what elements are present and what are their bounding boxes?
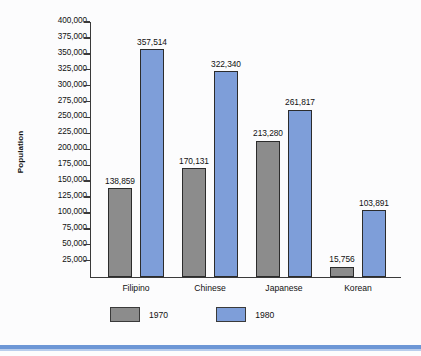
bar-value-label: 170,131 <box>168 156 220 166</box>
y-axis-tick-mark <box>84 165 90 166</box>
y-axis-tick-label: 225,000 <box>58 127 87 136</box>
y-axis-tick-label: 350,000 <box>58 48 87 57</box>
legend-swatch-1970 <box>110 307 140 322</box>
y-axis-tick-label: 300,000 <box>58 80 87 89</box>
y-axis-tick-mark <box>84 69 90 70</box>
y-axis-tick-label: 175,000 <box>58 159 87 168</box>
y-axis-tick-label: 400,000 <box>58 16 87 25</box>
y-axis-tick-label: 125,000 <box>58 191 87 200</box>
y-axis-tick-label: 275,000 <box>58 96 87 105</box>
y-axis-tick-label: 200,000 <box>58 143 87 152</box>
bar-value-label: 213,280 <box>242 128 294 138</box>
bar-japanese-1970 <box>256 141 280 277</box>
y-axis-tick-mark <box>84 244 90 245</box>
bar-value-label: 261,817 <box>274 97 326 107</box>
bar-chinese-1970 <box>182 168 206 276</box>
y-axis-tick-mark <box>84 228 90 229</box>
legend-swatch-1980 <box>216 307 246 322</box>
y-axis-tick-mark <box>84 53 90 54</box>
legend-item-1980: 1980 <box>216 307 274 322</box>
x-axis-line <box>90 277 401 278</box>
legend-label-1970: 1970 <box>149 310 168 320</box>
y-axis-tick-mark <box>84 101 90 102</box>
y-axis-tick-mark <box>84 133 90 134</box>
legend-label-1980: 1980 <box>255 310 274 320</box>
bottom-rule-soft <box>0 349 421 351</box>
y-axis-tick-mark <box>84 180 90 181</box>
x-axis-label-chinese: Chinese <box>180 283 240 293</box>
y-axis-tick-mark <box>84 212 90 213</box>
chart-legend: 1970 1980 <box>110 307 274 322</box>
y-axis-tick-label: 100,000 <box>58 207 87 216</box>
x-axis-label-korean: Korean <box>328 283 388 293</box>
y-axis-tick-label: 150,000 <box>58 175 87 184</box>
y-axis-tick-mark <box>84 117 90 118</box>
bar-value-label: 138,859 <box>94 176 146 186</box>
bar-value-label: 322,340 <box>200 59 252 69</box>
y-axis-tick-mark <box>84 85 90 86</box>
bar-korean-1980 <box>362 210 386 276</box>
x-axis-label-japanese: Japanese <box>254 283 314 293</box>
y-axis-tick-label: 375,000 <box>58 32 87 41</box>
x-axis-label-filipino: Filipino <box>106 283 166 293</box>
bar-chinese-1980 <box>214 71 238 276</box>
y-axis-tick-label: 250,000 <box>58 111 87 120</box>
legend-item-1970: 1970 <box>110 307 168 322</box>
y-axis-line <box>90 22 91 278</box>
bar-korean-1970 <box>330 267 354 277</box>
y-axis-tick-mark <box>84 260 90 261</box>
chart-figure: Population 400,000375,000350,000325,0003… <box>0 0 421 356</box>
y-axis-tick-mark <box>84 37 90 38</box>
bar-value-label: 103,891 <box>348 198 400 208</box>
y-axis-title: Population <box>16 112 25 192</box>
y-axis-tick-mark <box>84 21 90 22</box>
bar-filipino-1980 <box>140 49 164 277</box>
bar-filipino-1970 <box>108 188 132 276</box>
y-axis-tick-mark <box>84 149 90 150</box>
y-axis-tick-mark <box>84 196 90 197</box>
bar-japanese-1980 <box>288 110 312 277</box>
bar-value-label: 15,756 <box>316 254 368 264</box>
bar-value-label: 357,514 <box>126 37 178 47</box>
y-axis-tick-label: 325,000 <box>58 64 87 73</box>
